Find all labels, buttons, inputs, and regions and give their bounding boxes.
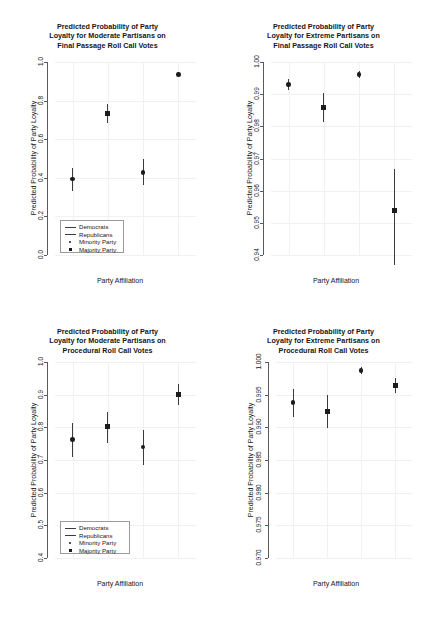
data-point-marker bbox=[359, 368, 364, 373]
y-axis-tick-label: 1.000 bbox=[255, 348, 262, 376]
y-axis-title: Predicted Probability of Party Loyalty bbox=[247, 403, 254, 517]
grid-line-horizontal bbox=[276, 460, 412, 461]
x-axis-title: Party Affiliation bbox=[236, 580, 431, 587]
y-axis-tick-label: 0.995 bbox=[255, 380, 262, 408]
y-axis-tick-label: 0.990 bbox=[255, 413, 262, 441]
y-axis-tick bbox=[265, 427, 268, 428]
figure-canvas: Predicted Probability of PartyLoyalty fo… bbox=[0, 0, 431, 617]
grid-line-vertical bbox=[361, 362, 362, 558]
grid-line-horizontal bbox=[276, 493, 412, 494]
panel-title: Predicted Probability of PartyLoyalty fo… bbox=[216, 327, 431, 355]
panel-title-line: Loyalty for Extreme Partisans on bbox=[216, 336, 431, 345]
grid-line-horizontal bbox=[276, 525, 412, 526]
y-axis-tick bbox=[265, 558, 268, 559]
y-axis-tick bbox=[265, 460, 268, 461]
y-axis-tick bbox=[265, 362, 268, 363]
y-axis-tick-label: 0.985 bbox=[255, 446, 262, 474]
data-point-marker bbox=[291, 400, 296, 405]
y-axis-tick bbox=[265, 395, 268, 396]
data-point-marker bbox=[325, 409, 330, 414]
y-axis-tick bbox=[265, 493, 268, 494]
y-axis-tick-label: 0.980 bbox=[255, 478, 262, 506]
grid-line-horizontal bbox=[276, 395, 412, 396]
y-axis-tick-label: 0.975 bbox=[255, 511, 262, 539]
grid-line-vertical bbox=[327, 362, 328, 558]
y-axis-tick-label: 0.970 bbox=[255, 544, 262, 572]
grid-line-horizontal bbox=[276, 362, 412, 363]
grid-line-horizontal bbox=[276, 427, 412, 428]
y-axis-tick bbox=[265, 525, 268, 526]
panel-title-line: Predicted Probability of Party bbox=[216, 327, 431, 336]
chart-panel-extreme-procedural: Predicted Probability of PartyLoyalty fo… bbox=[0, 0, 431, 617]
grid-line-horizontal bbox=[276, 558, 412, 559]
panel-title-line: Procedural Roll Call Votes bbox=[216, 346, 431, 355]
data-point-marker bbox=[393, 383, 398, 388]
y-axis-line bbox=[268, 362, 269, 558]
